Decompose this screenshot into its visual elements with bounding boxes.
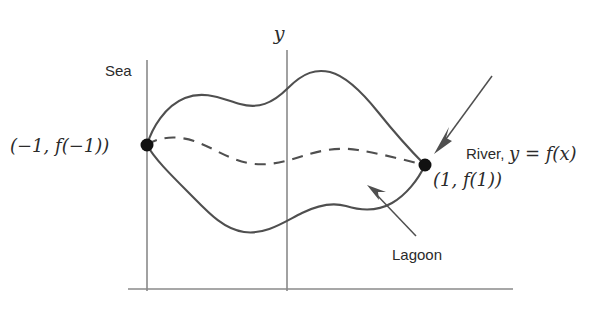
lower-shore-curve: [147, 145, 425, 232]
lagoon-pointer-arrowhead: [367, 185, 386, 200]
river-label-prefix: River,: [466, 145, 504, 162]
right-point-label: (1, f(1)): [433, 169, 502, 190]
sea-label: Sea: [105, 62, 132, 79]
right-endpoint-dot: [419, 159, 432, 172]
river-pointer-line: [443, 76, 492, 143]
lagoon-figure: y Sea (−1, f(−1)) River, y = f(x) (1, f(…: [0, 0, 610, 314]
diagram-canvas: y Sea (−1, f(−1)) River, y = f(x) (1, f(…: [0, 0, 610, 314]
left-point-label: (−1, f(−1)): [10, 135, 109, 156]
river-pointer-arrowhead: [434, 127, 452, 154]
lagoon-pointer-line: [374, 192, 416, 236]
river-dashed-curve: [147, 138, 425, 165]
lagoon-label: Lagoon: [392, 246, 442, 263]
left-endpoint-dot: [141, 139, 154, 152]
river-label-equation: y = f(x): [508, 143, 577, 164]
upper-shore-curve: [147, 71, 425, 165]
y-axis-label: y: [273, 22, 285, 44]
